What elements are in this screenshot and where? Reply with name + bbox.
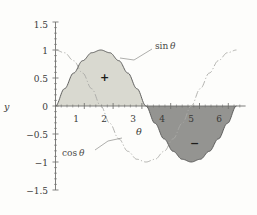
negative-sign-mark: − — [190, 138, 199, 149]
trig-figure: 1.5 1 0.5 0 −0.5 −1 −1.5 y 1 2 3 4 5 6 θ… — [0, 0, 257, 215]
y-tick-label-0: 0 — [14, 102, 48, 112]
x-axis-label: θ — [136, 126, 142, 137]
sin-curve-label: sin θ — [155, 41, 176, 51]
x-tick-label-6: 6 — [212, 114, 226, 124]
cos-curve-label: cos θ — [62, 148, 84, 158]
y-tick-label-1.5: 1.5 — [14, 20, 48, 30]
positive-sign-mark: + — [100, 72, 109, 83]
cos-label-leader-line — [95, 138, 122, 150]
x-tick-label-5: 5 — [184, 114, 198, 124]
sin-label-argument: θ — [170, 41, 175, 51]
cos-label-argument: θ — [79, 148, 84, 158]
y-axis-label: y — [4, 101, 9, 112]
x-tick-label-1: 1 — [69, 114, 83, 124]
x-tick-label-3: 3 — [126, 114, 140, 124]
y-tick-label-neg1: −1 — [10, 158, 48, 168]
cos-label-function: cos — [62, 148, 77, 158]
x-tick-label-4: 4 — [155, 114, 169, 124]
y-tick-label-0.5: 0.5 — [14, 74, 48, 84]
x-tick-label-2: 2 — [97, 114, 111, 124]
y-tick-label-1: 1 — [14, 46, 48, 56]
y-tick-label-neg0.5: −0.5 — [10, 130, 48, 140]
y-tick-label-neg1.5: −1.5 — [10, 186, 48, 196]
sin-label-function: sin — [155, 41, 168, 51]
sin-label-leader-line — [120, 49, 152, 60]
